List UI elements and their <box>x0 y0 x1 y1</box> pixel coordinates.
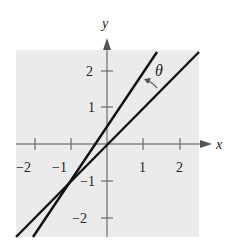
x-axis-arrow-icon <box>200 140 212 148</box>
y-axis-arrow-icon <box>103 38 111 50</box>
graph: −2 −1 1 2 2 1 −1 −2 x y θ <box>0 0 237 243</box>
x-axis-label: x <box>215 137 223 152</box>
y-tick-label: 1 <box>88 100 95 115</box>
y-axis-label: y <box>100 16 109 31</box>
x-tick-label: −2 <box>16 160 31 175</box>
x-tick-label: 1 <box>139 160 146 175</box>
y-tick-label: −1 <box>80 174 95 189</box>
x-tick-label: 2 <box>176 160 183 175</box>
x-tick-label: −1 <box>52 160 67 175</box>
y-tick-label: −2 <box>72 211 87 226</box>
angle-label: θ <box>155 62 163 79</box>
y-tick-label: 2 <box>86 64 93 79</box>
